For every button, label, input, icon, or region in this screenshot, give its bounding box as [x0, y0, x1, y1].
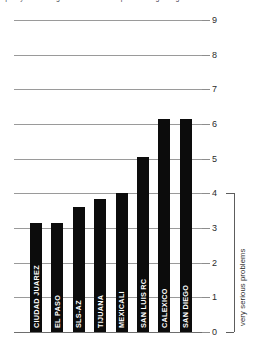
y-axis-tick-label: 6 — [212, 120, 217, 129]
bracket-arm-top — [226, 193, 234, 194]
gridline — [14, 89, 210, 90]
y-axis-tick-label: 7 — [212, 85, 217, 94]
bar — [94, 199, 106, 332]
bracket-arm-bottom — [226, 332, 234, 333]
y-axis-tick — [202, 193, 210, 194]
gridline — [14, 55, 210, 56]
bar — [51, 223, 63, 332]
bracket-spine — [234, 193, 235, 332]
y-axis-tick — [202, 124, 210, 125]
y-axis-tick — [202, 89, 210, 90]
y-axis-tick-label: 3 — [212, 224, 217, 233]
bar — [137, 157, 149, 332]
chart-figure: quality and strength of binational coope… — [0, 0, 260, 351]
bar — [158, 119, 170, 332]
plot-area: 0123456789CIUDAD JUAREZEL PASOSLS-AZTIJU… — [0, 0, 260, 351]
y-axis-tick-label: 5 — [212, 154, 217, 163]
y-axis-label: very serious problems — [238, 249, 247, 326]
y-axis-tick-label: 4 — [212, 189, 217, 198]
axis-baseline — [14, 332, 210, 333]
y-axis-tick-label: 9 — [212, 16, 217, 25]
bar — [116, 193, 128, 332]
y-axis-tick — [202, 159, 210, 160]
gridline — [14, 20, 210, 21]
bar — [180, 119, 192, 332]
y-axis-tick — [202, 55, 210, 56]
y-axis-tick — [202, 228, 210, 229]
y-axis-tick — [202, 263, 210, 264]
y-axis-tick — [202, 332, 210, 333]
y-axis-tick — [202, 297, 210, 298]
y-axis-tick-label: 0 — [212, 328, 217, 337]
y-axis-tick-label: 1 — [212, 293, 217, 302]
y-axis-tick — [202, 20, 210, 21]
bar — [73, 207, 85, 332]
y-axis-tick-label: 2 — [212, 258, 217, 267]
bar — [30, 223, 42, 332]
y-axis-tick-label: 8 — [212, 50, 217, 59]
